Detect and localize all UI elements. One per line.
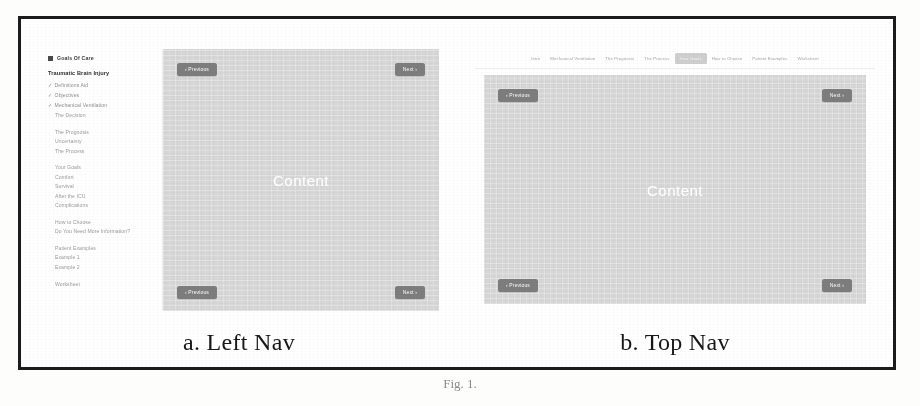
previous-button-bottom[interactable]: ‹ Previous (177, 286, 217, 299)
sidebar-item-example-2[interactable]: Example 2 (48, 263, 155, 273)
tab-the-process[interactable]: The Process (639, 53, 674, 64)
next-button-bottom[interactable]: Next › (822, 279, 852, 292)
sidebar-item-label: Worksheet (55, 282, 80, 287)
brand-label: Goals Of Care (57, 55, 94, 61)
content-placeholder-label: Content (484, 181, 866, 198)
sidebar-item-the-process[interactable]: The Process (48, 147, 155, 157)
sidebar-item-label: The Prognosis (55, 130, 89, 135)
sidebar-item-label: The Process (55, 149, 84, 154)
sidebar-item-your-goals[interactable]: Your Goals (48, 163, 155, 173)
sidebar-item-label: The Decision (55, 113, 86, 118)
previous-button-bottom[interactable]: ‹ Previous (498, 279, 538, 292)
sidebar-item-label: Survival (55, 184, 74, 189)
sidebar-heading: Traumatic Brain Injury (48, 70, 155, 76)
sidebar-item-uncertainty[interactable]: Uncertainty (48, 137, 155, 147)
sidebar-item-example-1[interactable]: Example 1 (48, 253, 155, 263)
sidebar-item-definitions-aid[interactable]: ✓ Definitions Aid (48, 81, 155, 91)
next-button-top[interactable]: Next › (822, 89, 852, 102)
sidebar-item-complications[interactable]: Complications (48, 201, 155, 211)
sidebar-item-how-to-choose[interactable]: How to Choose (48, 218, 155, 228)
sidebar-group: Patient Examples Example 1 Example 2 (48, 244, 155, 273)
content-placeholder-label: Content (163, 172, 439, 189)
square-bullet-icon (48, 56, 53, 61)
sidebar-group: How to Choose Do You Need More Informati… (48, 218, 155, 237)
content-stage-left-nav: Content ‹ Previous Next › ‹ Previous Nex… (163, 49, 439, 311)
figure-root: Goals Of Care Traumatic Brain Injury ✓ D… (0, 0, 920, 406)
sidebar-item-patient-examples[interactable]: Patient Examples (48, 244, 155, 254)
panels-row: Goals Of Care Traumatic Brain Injury ✓ D… (21, 19, 893, 317)
brand-row[interactable]: Goals Of Care (48, 55, 155, 61)
sidebar-item-more-information[interactable]: Do You Need More Information? (48, 227, 155, 237)
sidebar: Goals Of Care Traumatic Brain Injury ✓ D… (39, 49, 163, 311)
figure-frame: Goals Of Care Traumatic Brain Injury ✓ D… (18, 16, 896, 370)
panel-captions-row: a. Left Nav b. Top Nav (21, 317, 893, 367)
sidebar-item-label: How to Choose (55, 220, 91, 225)
top-nav-layout: Intro Mechanical Ventilation The Prognos… (475, 49, 875, 311)
tab-patient-examples[interactable]: Patient Examples (747, 53, 792, 64)
tab-the-prognosis[interactable]: The Prognosis (600, 53, 639, 64)
previous-button-top[interactable]: ‹ Previous (177, 63, 217, 76)
check-icon: ✓ (48, 84, 52, 89)
tab-intro[interactable]: Intro (526, 53, 545, 64)
tab-worksheet[interactable]: Worksheet (792, 53, 823, 64)
sidebar-item-comfort[interactable]: Comfort (48, 173, 155, 183)
sidebar-item-label: Mechanical Ventilation (55, 103, 107, 108)
sidebar-item-mechanical-ventilation[interactable]: ✓ Mechanical Ventilation (48, 101, 155, 111)
sidebar-item-label: Uncertainty (55, 139, 82, 144)
sidebar-item-survival[interactable]: Survival (48, 182, 155, 192)
sidebar-item-label: Example 2 (55, 265, 80, 270)
sidebar-group: Your Goals Comfort Survival After the IC… (48, 163, 155, 211)
sidebar-item-objectives[interactable]: ✓ Objectives (48, 91, 155, 101)
next-button-top[interactable]: Next › (395, 63, 425, 76)
sidebar-item-worksheet[interactable]: Worksheet (48, 279, 155, 289)
panel-a-left-nav: Goals Of Care Traumatic Brain Injury ✓ D… (21, 19, 457, 317)
sidebar-group: ✓ Definitions Aid ✓ Objectives ✓ Mechani… (48, 81, 155, 121)
sidebar-item-label: Your Goals (55, 165, 81, 170)
mock-window-top-nav: Intro Mechanical Ventilation The Prognos… (475, 49, 875, 311)
panel-b-top-nav: Intro Mechanical Ventilation The Prognos… (457, 19, 893, 317)
tab-how-to-choose[interactable]: How to Choose (707, 53, 748, 64)
panel-b-caption: b. Top Nav (620, 329, 730, 356)
sidebar-item-label: Definitions Aid (55, 83, 88, 88)
mock-window-left-nav: Goals Of Care Traumatic Brain Injury ✓ D… (39, 49, 439, 311)
content-stage-top-nav: Content ‹ Previous Next › ‹ Previous Nex… (484, 75, 866, 304)
tab-mechanical-ventilation[interactable]: Mechanical Ventilation (545, 53, 600, 64)
sidebar-item-the-prognosis[interactable]: The Prognosis (48, 128, 155, 138)
sidebar-group: Worksheet (48, 279, 155, 289)
figure-number-caption: Fig. 1. (0, 376, 920, 392)
caption-cell-a: a. Left Nav (21, 317, 457, 367)
sidebar-item-label: Comfort (55, 175, 74, 180)
sidebar-group: The Prognosis Uncertainty The Process (48, 128, 155, 157)
sidebar-item-label: Patient Examples (55, 246, 96, 251)
left-nav-layout: Goals Of Care Traumatic Brain Injury ✓ D… (39, 49, 439, 311)
check-icon: ✓ (48, 104, 52, 109)
next-button-bottom[interactable]: Next › (395, 286, 425, 299)
tab-your-goals[interactable]: Your Goals (675, 53, 707, 64)
previous-button-top[interactable]: ‹ Previous (498, 89, 538, 102)
check-icon: ✓ (48, 94, 52, 99)
sidebar-item-label: Example 1 (55, 255, 80, 260)
sidebar-item-label: Complications (55, 203, 88, 208)
top-navigation-bar: Intro Mechanical Ventilation The Prognos… (475, 49, 875, 69)
sidebar-item-after-the-icu[interactable]: After the ICU (48, 192, 155, 202)
sidebar-item-label: Do You Need More Information? (55, 229, 130, 234)
sidebar-item-label: Objectives (55, 93, 80, 98)
sidebar-item-label: After the ICU (55, 194, 85, 199)
panel-a-caption: a. Left Nav (183, 329, 295, 356)
content-stage-wrapper: Content ‹ Previous Next › ‹ Previous Nex… (475, 69, 875, 311)
caption-cell-b: b. Top Nav (457, 317, 893, 367)
sidebar-item-the-decision[interactable]: The Decision (48, 111, 155, 121)
